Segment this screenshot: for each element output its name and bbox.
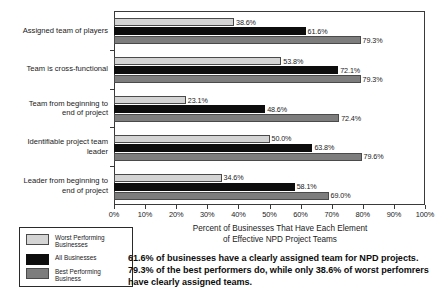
category-label: Assigned team of players: [2, 26, 108, 36]
x-axis-title: Percent of Businesses That Have Each Ele…: [130, 224, 430, 245]
bar-all: [114, 183, 295, 191]
legend-label: All Businesses: [55, 254, 97, 261]
category-label: Team from beginning to end of project: [2, 99, 108, 118]
bar-worst: [114, 57, 281, 65]
x-axis-tick: [207, 205, 208, 209]
bar-value-label: 34.6%: [224, 174, 244, 182]
bar-value-label: 79.6%: [364, 153, 384, 161]
x-axis-tick: [176, 205, 177, 209]
bar-value-label: 58.1%: [297, 183, 317, 191]
legend-swatch-all: [26, 254, 49, 265]
y-axis-tick: [110, 127, 114, 128]
bar-worst: [114, 135, 270, 143]
bar-all: [114, 66, 338, 74]
bar-worst: [114, 18, 234, 26]
bar-value-label: 79.3%: [363, 37, 383, 45]
x-axis-tick: [394, 205, 395, 209]
bar-best: [114, 192, 329, 200]
y-axis-tick: [110, 89, 114, 90]
legend-label: Worst Performing Businesses: [55, 234, 105, 249]
chart-figure: Assigned team of players38.6%61.6%79.3%T…: [0, 0, 448, 302]
bar-all: [114, 144, 312, 152]
bar-value-label: 38.6%: [236, 19, 256, 27]
x-axis-tick: [114, 205, 115, 209]
category-label: Team is cross-functional: [2, 64, 108, 74]
bar-best: [114, 75, 361, 83]
bar-value-label: 69.0%: [331, 192, 351, 200]
bar-worst: [114, 96, 186, 104]
x-axis-tick: [145, 205, 146, 209]
bar-worst: [114, 174, 222, 182]
bar-best: [114, 114, 339, 122]
x-axis-tick: [363, 205, 364, 209]
bar-all: [114, 105, 265, 113]
x-axis-tick: [270, 205, 271, 209]
legend-swatch-worst: [26, 234, 49, 245]
x-axis-tick: [301, 205, 302, 209]
bar-value-label: 53.8%: [283, 58, 303, 66]
legend-swatch-best: [26, 268, 49, 279]
bar-value-label: 48.6%: [267, 106, 287, 114]
bar-best: [114, 153, 362, 161]
bar-value-label: 72.1%: [340, 67, 360, 75]
x-axis-title-line1: Percent of Businesses That Have Each Ele…: [130, 224, 430, 235]
legend-item: Best Performing Business: [26, 268, 101, 283]
legend-item: Worst Performing Businesses: [26, 234, 105, 249]
bar-value-label: 72.4%: [341, 115, 361, 123]
x-axis-tick: [425, 205, 426, 209]
caption-text: 61.6% of businesses have a clearly assig…: [128, 252, 444, 289]
legend: Worst Performing BusinessesAll Businesse…: [19, 227, 133, 287]
bar-value-label: 50.0%: [272, 135, 292, 143]
x-axis-tick: [332, 205, 333, 209]
y-axis-tick: [110, 50, 114, 51]
x-axis-title-line2: of Effective NPD Project Teams: [130, 235, 430, 246]
x-axis-tick-label: 100%: [405, 210, 445, 219]
category-label: Identifiable project team leader: [2, 137, 108, 156]
y-axis-tick: [110, 166, 114, 167]
bar-value-label: 79.3%: [363, 76, 383, 84]
x-axis-tick: [238, 205, 239, 209]
legend-item: All Businesses: [26, 254, 97, 265]
bar-value-label: 23.1%: [188, 97, 208, 105]
bar-value-label: 61.6%: [308, 28, 328, 36]
bar-value-label: 63.8%: [314, 144, 334, 152]
bar-best: [114, 36, 361, 44]
category-label: Leader from beginning to end of project: [2, 176, 108, 195]
legend-label: Best Performing Business: [55, 268, 101, 283]
bar-all: [114, 27, 306, 35]
